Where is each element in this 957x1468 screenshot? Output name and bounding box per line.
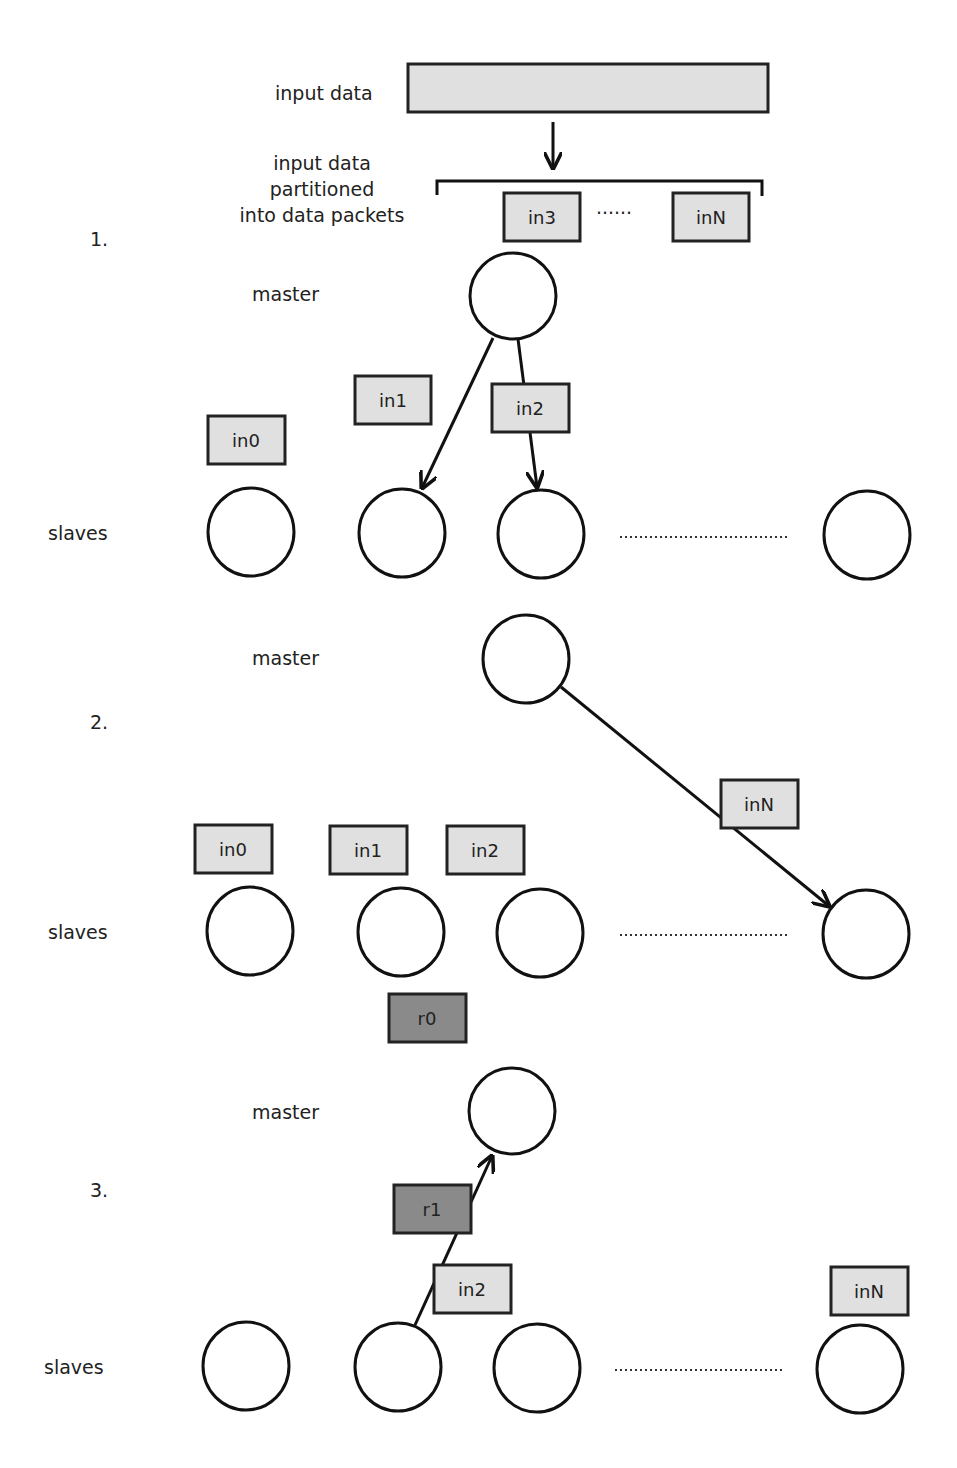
step-2-slave-0 bbox=[207, 887, 293, 975]
step-1-slave-2 bbox=[498, 490, 584, 578]
step-1-slave-0 bbox=[208, 488, 294, 576]
step-1-master-node bbox=[470, 253, 556, 339]
step-1-master-label: master bbox=[252, 283, 319, 305]
step-3-slave-0 bbox=[203, 1322, 289, 1410]
step-2-packet-in1-label: in1 bbox=[354, 840, 382, 861]
step-3-slave-n bbox=[817, 1325, 903, 1413]
step-3-slave-1 bbox=[355, 1323, 441, 1411]
step-1-packet-in2-label: in2 bbox=[516, 398, 544, 419]
step-1-slaves-label: slaves bbox=[48, 522, 108, 544]
step-2-slave-1 bbox=[358, 888, 444, 976]
partition-label-3: into data packets bbox=[240, 204, 405, 226]
step-3-master-node bbox=[469, 1068, 555, 1154]
input-data-block bbox=[408, 64, 768, 112]
queue-ellipsis: ...... bbox=[596, 196, 632, 218]
step-2-master-node bbox=[483, 615, 569, 703]
step-2-number: 2. bbox=[90, 711, 108, 733]
queue-packet-in3-label: in3 bbox=[528, 207, 556, 228]
step-1-slave-1 bbox=[359, 489, 445, 577]
queue-packet-inN-label: inN bbox=[696, 207, 726, 228]
master-slave-diagram: input data input data partitioned into d… bbox=[0, 0, 957, 1468]
step-3-number: 3. bbox=[90, 1179, 108, 1201]
step-1-edge-to-slave-1 bbox=[422, 338, 493, 488]
step-1-number: 1. bbox=[90, 228, 108, 250]
step-2-slave-2 bbox=[497, 889, 583, 977]
step-2-result-r0-label: r0 bbox=[418, 1008, 437, 1029]
step-2-packet-inN-label: inN bbox=[744, 794, 774, 815]
step-1-slave-n bbox=[824, 491, 910, 579]
step-3-slaves-label: slaves bbox=[44, 1356, 104, 1378]
step-3-packet-in2-label: in2 bbox=[458, 1279, 486, 1300]
step-2-packet-in2-label: in2 bbox=[471, 840, 499, 861]
partition-label-2: partitioned bbox=[270, 178, 374, 200]
partition-label-1: input data bbox=[273, 152, 371, 174]
step-3-packet-inN-label: inN bbox=[854, 1281, 884, 1302]
step-3-master-label: master bbox=[252, 1101, 319, 1123]
step-2-packet-in0-label: in0 bbox=[219, 839, 247, 860]
step-2-slaves-label: slaves bbox=[48, 921, 108, 943]
step-3-slave-2 bbox=[494, 1324, 580, 1412]
step-3-result-r1-label: r1 bbox=[423, 1199, 442, 1220]
input-data-label: input data bbox=[275, 82, 373, 104]
step-2-slave-n bbox=[823, 890, 909, 978]
step-1-packet-in0-label: in0 bbox=[232, 430, 260, 451]
step-1-packet-in1-label: in1 bbox=[379, 390, 407, 411]
step-2-master-label: master bbox=[252, 647, 319, 669]
